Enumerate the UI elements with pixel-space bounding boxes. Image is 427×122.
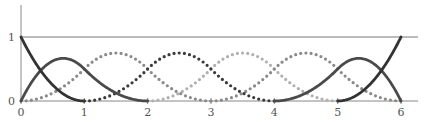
bspline-basis-chart: 0123456 0 1	[0, 0, 427, 122]
y-tick-label-1: 1	[8, 31, 15, 44]
x-tick-label-0: 0	[18, 106, 25, 119]
basis-curve-n7	[338, 37, 401, 101]
basis-curve-n6	[274, 58, 401, 101]
basis-curves	[21, 37, 401, 101]
x-tick-label-5: 5	[334, 106, 341, 119]
x-tick-label-4: 4	[271, 106, 278, 119]
basis-curve-n1	[21, 58, 148, 101]
x-tick-label-2: 2	[144, 106, 151, 119]
x-tick-label-6: 6	[398, 106, 405, 119]
x-tick-label-1: 1	[81, 106, 88, 119]
y-tick-label-0: 0	[8, 95, 15, 108]
y-ticks: 0 1	[8, 31, 15, 108]
x-tick-label-3: 3	[208, 106, 215, 119]
basis-curve-n0	[21, 37, 84, 101]
